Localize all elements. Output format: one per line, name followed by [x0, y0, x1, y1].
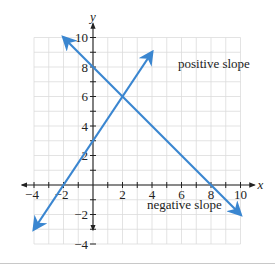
y-tick-label: 6 — [82, 89, 89, 104]
positive-slope-label: positive slope — [178, 56, 250, 71]
coordinate-plane: −4−2246810−4−2246810xypositive slopenega… — [0, 0, 275, 271]
y-tick-label: −4 — [74, 237, 88, 252]
y-tick-label: −2 — [74, 207, 88, 222]
bottom-divider — [0, 263, 275, 264]
x-tick-label: 2 — [119, 187, 126, 202]
y-tick-label: 4 — [82, 119, 89, 134]
x-tick-label: 10 — [234, 187, 247, 202]
x-axis-label: x — [257, 177, 264, 192]
x-tick-label: −4 — [25, 187, 39, 202]
negative-slope-label: negative slope — [147, 197, 222, 212]
y-axis-label: y — [88, 9, 96, 24]
y-tick-label: 10 — [75, 30, 88, 45]
